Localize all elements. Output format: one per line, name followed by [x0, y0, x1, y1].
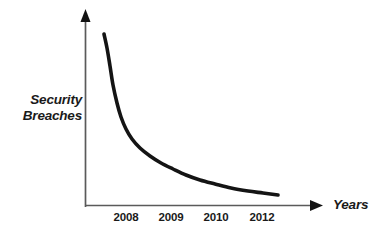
y-axis-label-line-2: Breaches — [0, 108, 82, 124]
arrow-up-icon — [81, 9, 91, 22]
x-axis-tick-labels: 2008200920102012 — [0, 210, 380, 226]
x-tick-label: 2008 — [104, 210, 148, 224]
y-axis-label-line-1: Security — [0, 92, 82, 108]
y-axis-label: Security Breaches — [0, 92, 82, 123]
x-tick-label: 2010 — [194, 210, 238, 224]
chart-figure: Security Breaches Years 2008200920102012 — [0, 0, 380, 239]
security-breaches-curve — [104, 34, 278, 195]
x-tick-label: 2009 — [149, 210, 193, 224]
x-tick-label: 2012 — [240, 210, 284, 224]
clipped-caption — [0, 232, 380, 239]
